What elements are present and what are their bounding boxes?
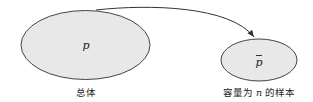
population-symbol: p xyxy=(82,39,89,52)
sample-symbol-bar xyxy=(256,55,262,56)
sample-symbol: p xyxy=(255,56,262,69)
sample-caption: 容量为 n 的样本 xyxy=(223,85,295,99)
sample-caption-prefix: 容量为 xyxy=(223,87,256,98)
sample-caption-suffix: 的样本 xyxy=(262,87,295,98)
sampling-diagram: p 总体 p 容量为 n 的样本 xyxy=(0,0,313,102)
population-caption: 总体 xyxy=(76,85,96,99)
